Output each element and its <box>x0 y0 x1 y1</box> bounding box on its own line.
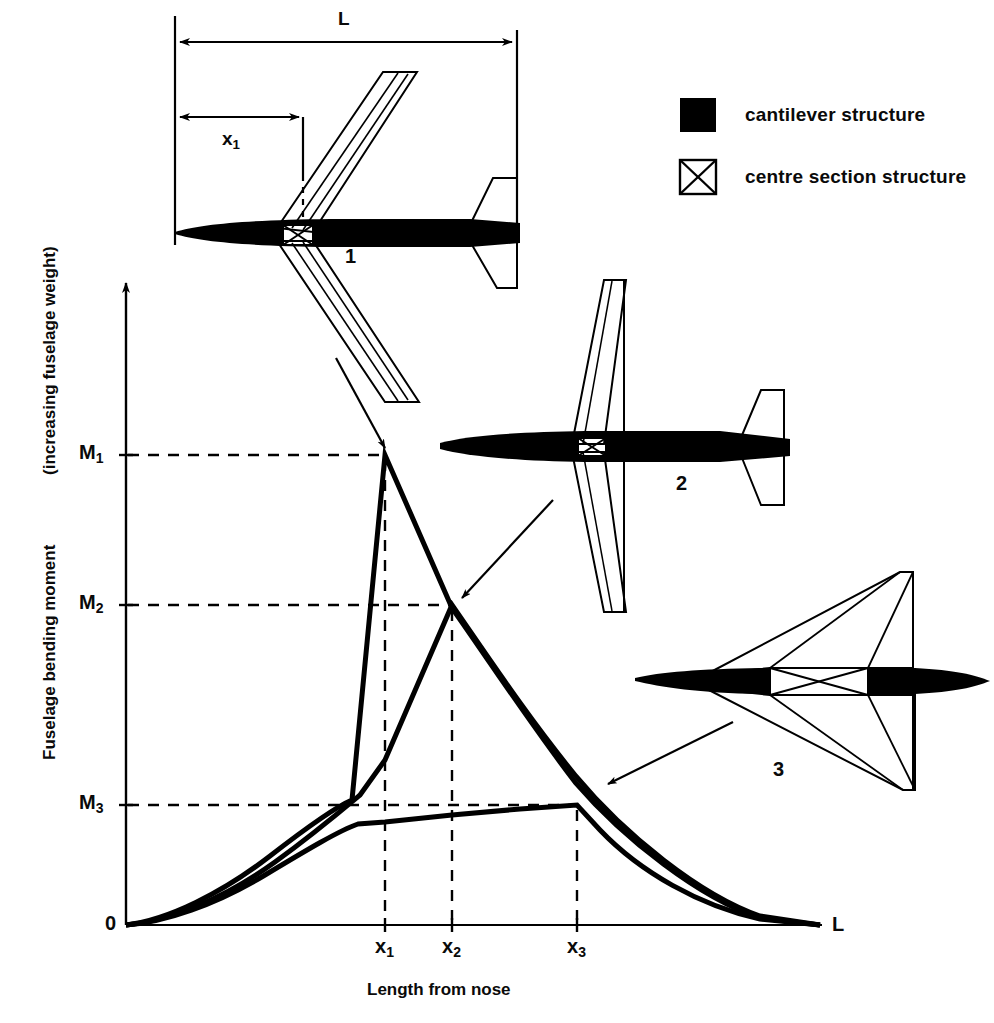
legend-item-cantilever: cantilever structure <box>745 104 925 126</box>
aircraft-3-wing-upper-rib <box>770 572 900 668</box>
x-axis-title: Length from nose <box>367 980 511 1000</box>
aircraft-1-wing-upper-spar2 <box>303 74 408 230</box>
aircraft-1-wing-upper-spar1 <box>292 73 398 228</box>
filled-square-icon <box>680 98 716 132</box>
x-tick-label-x1: x1 <box>375 935 394 960</box>
aircraft-3-number: 3 <box>773 758 784 781</box>
y-tick-label-M3: M3 <box>79 791 103 816</box>
aircraft-1-fuselage <box>175 219 520 247</box>
aircraft-3-wing-lower-rib <box>770 695 903 790</box>
aircraft-1-number: 1 <box>345 245 356 268</box>
aircraft-3-wing-lower <box>705 688 915 790</box>
x-axis-end-label: L <box>832 913 844 936</box>
y-axis-title: Fuselage bending moment <box>40 545 60 760</box>
dimension-label-L: L <box>338 8 350 30</box>
y-tick-label-M1: M1 <box>79 441 103 466</box>
callout-arrow-aircraft-2 <box>462 500 553 598</box>
aircraft-1 <box>175 72 520 402</box>
aircraft-3 <box>635 572 990 790</box>
origin-label: 0 <box>105 912 116 935</box>
aircraft-3-fuselage-front <box>635 668 770 695</box>
legend-item-centre-section: centre section structure <box>745 166 966 188</box>
x-tick-label-x2: x2 <box>442 935 461 960</box>
diagram-root: L x1 cantilever structure centre section… <box>0 0 994 1023</box>
y-axis-subtitle: (increasing fuselage weight) <box>40 246 60 475</box>
dimension-label-x1: x1 <box>222 128 240 152</box>
curve-aircraft-2 <box>126 605 820 925</box>
aircraft-3-fuselage-rear <box>868 668 990 694</box>
aircraft-1-wing-upper <box>277 72 417 232</box>
crossed-square-icon <box>680 160 716 194</box>
aircraft-3-wing-upper <box>705 572 913 675</box>
aircraft-2-number: 2 <box>676 472 687 495</box>
y-tick-label-M2: M2 <box>79 591 103 616</box>
diagram-canvas <box>0 0 994 1023</box>
aircraft-2-tailplane-lower <box>740 453 784 505</box>
x-tick-label-x3: x3 <box>567 935 586 960</box>
aircraft-2 <box>440 280 790 612</box>
aircraft-2-wing-lower <box>572 452 626 612</box>
aircraft-2-fuselage <box>440 431 790 462</box>
callout-arrow-aircraft-3 <box>608 722 733 784</box>
aircraft-2-wing-upper <box>572 280 626 444</box>
legend-swatches <box>680 98 716 194</box>
graph-axes <box>119 283 822 932</box>
curve-aircraft-3 <box>126 805 820 925</box>
